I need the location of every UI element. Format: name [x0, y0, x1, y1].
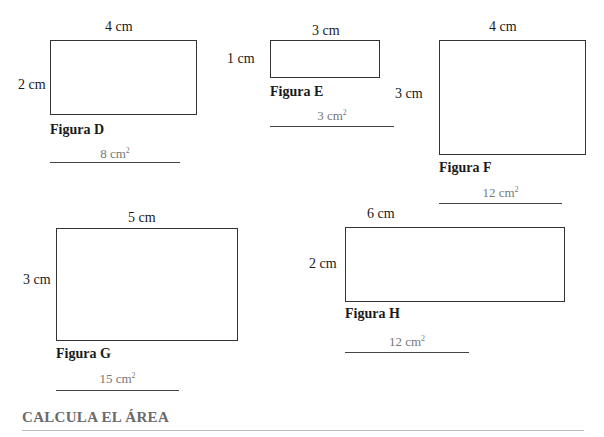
figure-g-height-label: 3 cm — [23, 272, 51, 288]
figure-f-rectangle — [439, 40, 586, 155]
figure-d-height-label: 2 cm — [18, 77, 46, 93]
figure-g-width-label: 5 cm — [128, 210, 156, 226]
figure-f-answer[interactable]: 12 cm2 — [439, 185, 562, 201]
figure-d-rectangle — [50, 40, 197, 115]
figure-e-width-label: 3 cm — [312, 23, 340, 39]
figure-f-title: Figura F — [439, 160, 492, 176]
figure-h-rectangle — [345, 227, 565, 302]
figure-e-answer-line — [270, 126, 394, 127]
figure-d-width-label: 4 cm — [105, 19, 133, 35]
figure-d-answer-line — [50, 162, 180, 163]
section-divider — [22, 430, 584, 431]
figure-g-title: Figura G — [56, 346, 111, 362]
section-title: CALCULA EL ÁREA — [22, 409, 169, 426]
figure-h-answer[interactable]: 12 cm2 — [345, 334, 469, 350]
figure-g-answer[interactable]: 15 cm2 — [56, 371, 179, 387]
figure-h-height-label: 2 cm — [309, 256, 337, 272]
figure-h-answer-line — [345, 352, 469, 353]
figure-d-title: Figura D — [50, 122, 104, 138]
figure-f-answer-line — [439, 203, 562, 204]
figure-g-answer-line — [56, 390, 179, 391]
figure-h-width-label: 6 cm — [367, 206, 395, 222]
figure-h-title: Figura H — [345, 306, 400, 322]
figure-e-rectangle — [270, 40, 380, 78]
figure-d-answer[interactable]: 8 cm2 — [50, 146, 180, 162]
figure-e-answer[interactable]: 3 cm2 — [270, 108, 394, 124]
figure-f-height-label: 3 cm — [395, 86, 423, 102]
figure-g-rectangle — [56, 228, 238, 341]
figure-e-height-label: 1 cm — [227, 51, 255, 67]
figure-e-title: Figura E — [270, 84, 323, 100]
figure-f-width-label: 4 cm — [489, 19, 517, 35]
